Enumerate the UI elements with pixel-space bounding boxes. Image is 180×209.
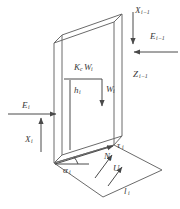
label-l-subscript: i (128, 190, 130, 196)
label-x: X (25, 135, 31, 144)
label-x-prev: X (135, 6, 141, 15)
slice-force-diagram: X i−1 E i−1 Z i−1 K c W i W i h i E i X … (0, 0, 180, 209)
label-e-prev: E (150, 32, 156, 41)
label-tau: τ (117, 141, 120, 150)
label-z-prev-subscript: i−1 (139, 73, 148, 79)
label-alpha-subscript: i (69, 169, 71, 175)
label-alpha: α (63, 166, 68, 175)
label-e-subscript: i (28, 104, 30, 110)
label-x-subscript: i (31, 138, 33, 144)
label-kcw-k-subscript: c (80, 66, 83, 72)
label-e: E (22, 101, 28, 110)
label-w-subscript: i (113, 88, 115, 94)
label-h-subscript: i (79, 89, 81, 95)
label-kcw-w-subscript: i (91, 66, 93, 72)
label-l: l (124, 187, 127, 196)
label-tau-subscript: i (122, 144, 124, 150)
label-h: h (74, 86, 79, 95)
label-x-prev-subscript: i−1 (141, 9, 150, 15)
label-e-prev-subscript: i−1 (156, 35, 165, 41)
label-u-subscript: i (119, 167, 121, 173)
label-n-subscript: i (110, 155, 112, 161)
label-z-prev: Z (133, 70, 138, 79)
